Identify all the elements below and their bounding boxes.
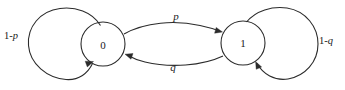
self-loop-state-one (247, 8, 319, 80)
self-loop-state-zero-path (28, 8, 100, 80)
self-loop-label-one-minus-p: 1-p (4, 30, 18, 41)
transition-label-q: q (170, 61, 176, 73)
transition-label-p: p (172, 10, 179, 22)
transition-zero-to-one-arrowhead (215, 27, 223, 33)
self-loop-label-one-minus-q-variable: q (328, 35, 333, 46)
markov-chain-diagram: 0 1 p q 1-p 1-q (0, 0, 345, 90)
node-state-zero[interactable]: 0 (81, 22, 125, 66)
node-state-one[interactable]: 1 (221, 21, 265, 65)
transition-one-to-zero-arrowhead (125, 54, 133, 60)
self-loop-label-one-minus-p-variable: p (12, 30, 18, 41)
self-loop-state-zero (28, 8, 100, 80)
transition-zero-to-one-path (124, 23, 220, 34)
self-loop-label-one-minus-q: 1-q (319, 35, 333, 46)
state-diagram-canvas: 0 1 p q 1-p 1-q (0, 0, 345, 90)
transition-zero-to-one (124, 23, 223, 34)
node-state-one-label: 1 (240, 37, 246, 49)
node-state-zero-label: 0 (100, 39, 106, 51)
